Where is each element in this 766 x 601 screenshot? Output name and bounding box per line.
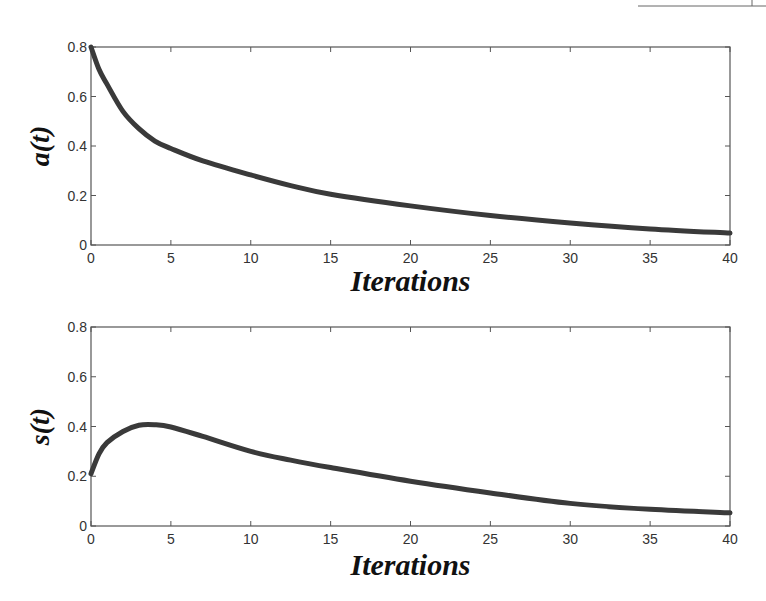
- x-tick-label: 15: [323, 531, 339, 547]
- series-line-st: [91, 424, 730, 512]
- plot-a-of-t: 051015202530354000.20.40.60.8Iterationsa…: [24, 39, 738, 297]
- x-tick-label: 30: [562, 531, 578, 547]
- plot-s-of-t: 051015202530354000.20.40.60.8Iterationss…: [24, 319, 738, 581]
- axes-frame: [91, 47, 730, 245]
- y-tick-label: 0.4: [68, 419, 88, 435]
- y-tick-label: 0.6: [68, 369, 88, 385]
- y-tick-label: 0.6: [68, 89, 88, 105]
- x-tick-label: 0: [87, 531, 95, 547]
- x-tick-label: 35: [642, 531, 658, 547]
- y-tick-label: 0.4: [68, 138, 88, 154]
- axes-frame: [91, 327, 730, 526]
- x-tick-label: 30: [562, 250, 578, 266]
- x-tick-label: 10: [243, 250, 259, 266]
- x-tick-label: 5: [167, 250, 175, 266]
- x-tick-label: 0: [87, 250, 95, 266]
- y-axis-title: a(t): [24, 126, 55, 166]
- series-line-at: [91, 47, 730, 233]
- x-tick-label: 35: [642, 250, 658, 266]
- x-tick-label: 25: [483, 531, 499, 547]
- x-tick-label: 15: [323, 250, 339, 266]
- figure: 051015202530354000.20.40.60.8Iterationsa…: [0, 0, 766, 601]
- y-axis-title: s(t): [24, 408, 55, 446]
- x-tick-label: 20: [403, 531, 419, 547]
- y-tick-label: 0: [79, 237, 87, 253]
- x-tick-label: 5: [167, 531, 175, 547]
- x-tick-label: 10: [243, 531, 259, 547]
- y-tick-label: 0.8: [68, 319, 88, 335]
- x-tick-label: 40: [722, 250, 738, 266]
- y-tick-label: 0.8: [68, 39, 88, 55]
- y-tick-label: 0.2: [68, 188, 88, 204]
- x-tick-label: 25: [483, 250, 499, 266]
- y-tick-label: 0: [79, 518, 87, 534]
- x-axis-title: Iterations: [349, 264, 470, 297]
- y-tick-label: 0.2: [68, 468, 88, 484]
- x-axis-title: Iterations: [349, 548, 470, 581]
- x-tick-label: 40: [722, 531, 738, 547]
